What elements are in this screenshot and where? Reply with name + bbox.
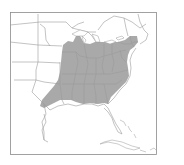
range-map [0,0,184,165]
